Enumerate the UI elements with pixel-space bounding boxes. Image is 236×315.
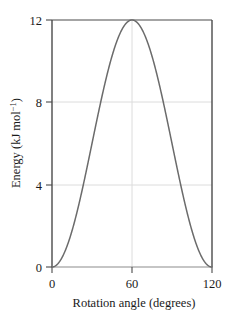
svg-text:Energy (kJ mol−1): Energy (kJ mol−1) — [8, 98, 23, 188]
y-axis-title-superscript: −1 — [8, 102, 18, 111]
ytick-label-12: 12 — [30, 14, 43, 28]
ytick-label-4: 4 — [36, 179, 43, 193]
xtick-label-0: 0 — [49, 277, 55, 291]
ytick-label-0: 0 — [36, 261, 42, 275]
chart-figure: 12 8 4 0 0 60 120 Rotation angle (degree… — [0, 0, 236, 315]
ytick-label-8: 8 — [36, 96, 42, 110]
xtick-label-60: 60 — [126, 277, 139, 291]
y-axis-title-main: Energy (kJ mol — [9, 111, 23, 188]
x-axis-ticks — [52, 267, 212, 273]
y-axis-ticks — [46, 20, 52, 267]
y-axis-title-tail: ) — [9, 98, 23, 102]
x-axis-title: Rotation angle (degrees) — [73, 296, 196, 310]
y-axis-title: Energy (kJ mol−1) — [8, 98, 23, 188]
xtick-label-120: 120 — [203, 277, 222, 291]
torsional-energy-chart: 12 8 4 0 0 60 120 Rotation angle (degree… — [0, 0, 236, 315]
